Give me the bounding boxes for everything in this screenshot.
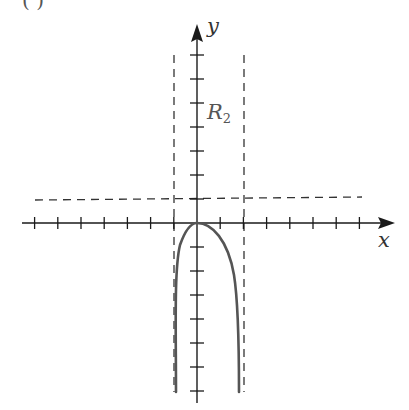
region-label: R2 (207, 100, 231, 126)
graph-canvas (0, 0, 409, 410)
y-axis (190, 24, 204, 403)
part-label: ( ) (22, 0, 44, 12)
x-axis-label: x (378, 228, 390, 252)
region-label-subscript: 2 (223, 111, 231, 126)
function-curve (176, 223, 239, 392)
y-axis-label: y (207, 14, 219, 38)
region-label-main: R (207, 100, 223, 124)
